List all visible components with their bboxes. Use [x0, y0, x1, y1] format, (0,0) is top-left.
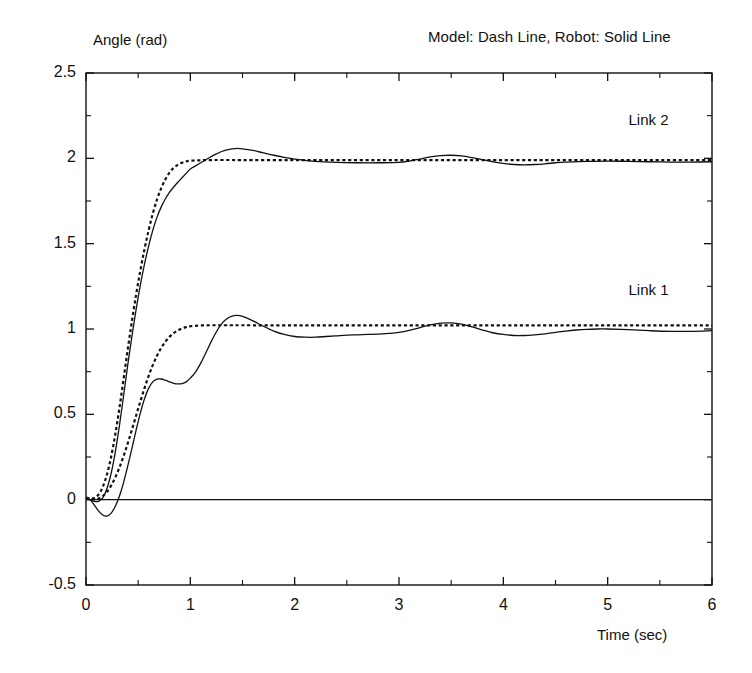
y-tick-label: 2 — [24, 148, 76, 166]
x-tick-label: 6 — [697, 596, 727, 614]
y-tick-label: 0.5 — [24, 404, 76, 422]
x-tick-label: 4 — [488, 596, 518, 614]
y-tick-label: 2.5 — [24, 63, 76, 81]
y-tick-label: 1 — [24, 319, 76, 337]
y-tick-label: 0 — [24, 490, 76, 508]
x-tick-label: 5 — [593, 596, 623, 614]
chart-figure: Model: Dash Line, Robot: Solid Line Angl… — [0, 0, 752, 673]
y-tick-label: 1.5 — [24, 234, 76, 252]
data-series — [86, 148, 712, 516]
x-tick-label: 0 — [71, 596, 101, 614]
series-path-0 — [86, 325, 712, 499]
x-tick-label: 2 — [280, 596, 310, 614]
x-tick-label: 1 — [175, 596, 205, 614]
series-annotation-link-2: Link 2 — [629, 111, 669, 128]
series-annotation-link-1: Link 1 — [629, 281, 669, 298]
x-tick-label: 3 — [384, 596, 414, 614]
y-tick-label: -0.5 — [24, 575, 76, 593]
plot-canvas — [0, 0, 752, 673]
series-path-1 — [86, 315, 712, 516]
